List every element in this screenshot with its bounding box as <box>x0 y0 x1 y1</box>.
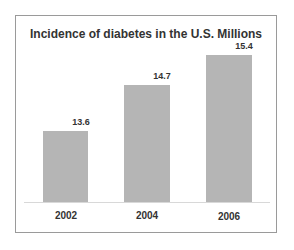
x-tick-2004: 2004 <box>117 210 177 221</box>
bar-2006 <box>206 55 252 202</box>
bar-2002 <box>43 131 88 202</box>
x-tick-2006: 2006 <box>199 211 259 222</box>
value-label-2002: 13.6 <box>51 117 111 127</box>
x-axis <box>24 202 270 203</box>
bar-2004 <box>124 85 170 202</box>
x-tick-2002: 2002 <box>36 210 96 221</box>
value-label-2006: 15.4 <box>214 41 274 51</box>
value-label-2004: 14.7 <box>132 71 192 81</box>
chart-frame: Incidence of diabetes in the U.S. Millio… <box>15 15 277 233</box>
chart-title: Incidence of diabetes in the U.S. Millio… <box>16 27 276 41</box>
